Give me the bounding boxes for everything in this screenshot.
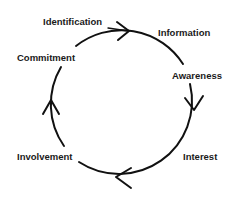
stage-label-commitment: Commitment (17, 53, 75, 63)
arrow-head-bottom (116, 168, 131, 188)
arc-awareness-to-involvement (79, 84, 192, 174)
stage-label-awareness: Awareness (172, 71, 222, 81)
stage-label-identification: Identification (43, 17, 102, 27)
arrow-head-right (185, 96, 203, 110)
stage-label-interest: Interest (183, 152, 217, 162)
stage-label-information: Information (158, 28, 210, 38)
stage-label-involvement: Involvement (17, 152, 72, 162)
arc-involvement-to-commitment (51, 67, 64, 146)
